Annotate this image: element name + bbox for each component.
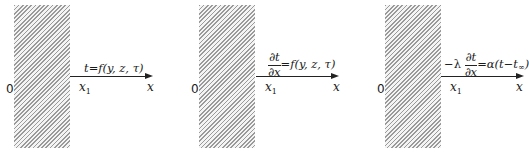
boundary-condition-formula: −λ ∂t ∂x =α(t−t∞) bbox=[444, 52, 529, 78]
partial-derivative-fraction: ∂t ∂x bbox=[465, 52, 478, 78]
solid-wall-hatch bbox=[385, 5, 441, 148]
surface-label: x1 bbox=[450, 80, 462, 96]
x-axis-label: x bbox=[516, 80, 523, 94]
origin-label: 0 bbox=[377, 82, 385, 96]
